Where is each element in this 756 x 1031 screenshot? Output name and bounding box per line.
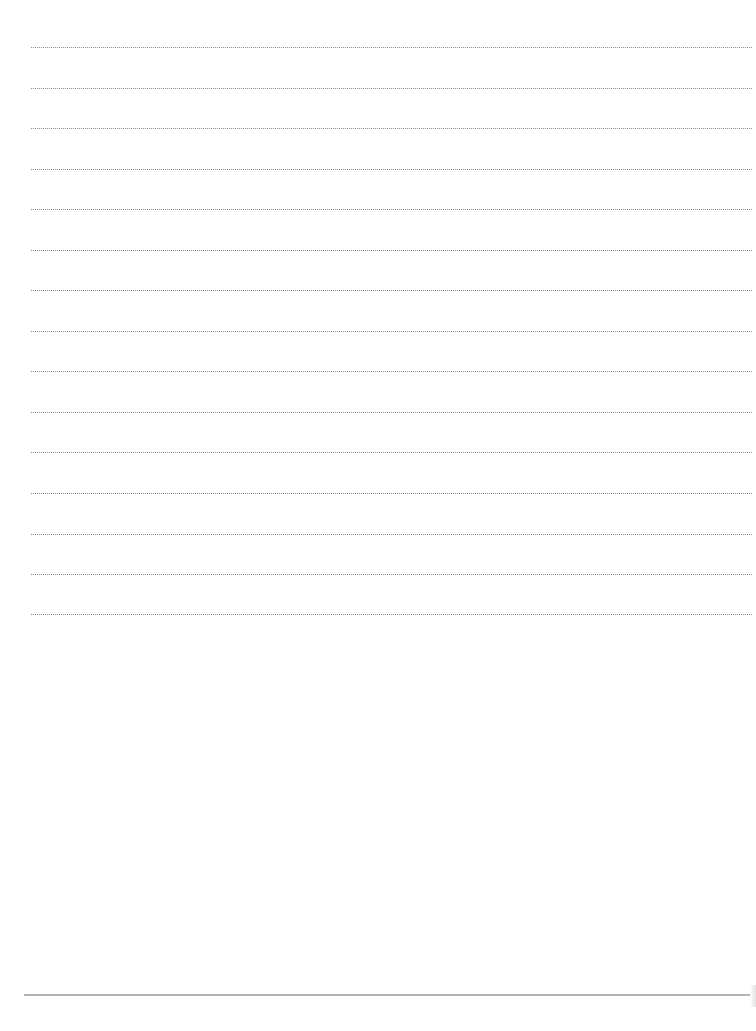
bottom-rule xyxy=(24,994,751,996)
dotted-rule-line xyxy=(31,452,752,453)
dotted-rule-line xyxy=(31,209,752,210)
dotted-rule-line xyxy=(31,128,752,129)
dotted-rule-line xyxy=(31,250,752,251)
dotted-rule-line xyxy=(31,47,752,48)
dotted-rule-line xyxy=(31,331,752,332)
dotted-rule-line xyxy=(31,493,752,494)
dotted-rule-line xyxy=(31,371,752,372)
dotted-rule-line xyxy=(31,614,752,615)
dotted-rule-line xyxy=(31,534,752,535)
lined-paper-page xyxy=(0,0,756,1031)
dotted-rule-line xyxy=(31,412,752,413)
dotted-rule-line xyxy=(31,290,752,291)
dotted-rule-line xyxy=(31,88,752,89)
dotted-rule-line xyxy=(31,574,752,575)
page-edge-shadow xyxy=(750,985,756,1007)
dotted-rule-line xyxy=(31,169,752,170)
